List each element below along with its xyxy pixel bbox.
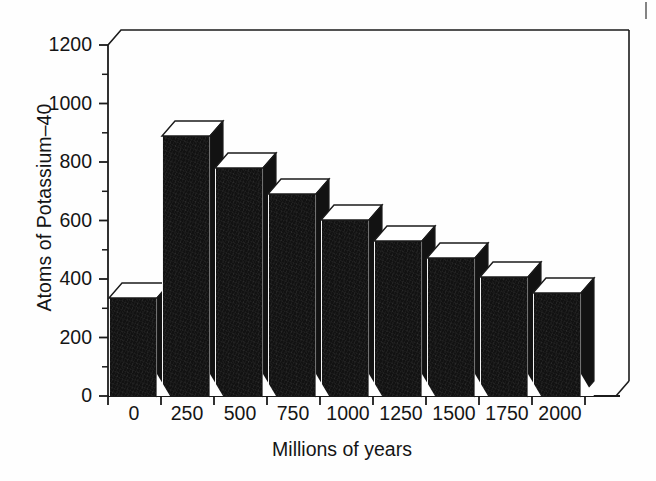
chart-figure: 0 200 400 600 800 1000 1200 0 250 500 75… <box>0 0 656 481</box>
x-axis-title: Millions of years <box>0 438 656 461</box>
x-tick-label-1750: 1750 <box>485 402 528 424</box>
x-tick-label-0: 0 <box>129 402 140 424</box>
y-tick-label-1200: 1200 <box>18 35 92 55</box>
x-tick-label-1250: 1250 <box>379 402 422 424</box>
y-axis-title: Atoms of Potassium–40 <box>33 78 56 338</box>
x-axis-title-text: Millions of years <box>272 438 412 461</box>
x-tick-label-2000: 2000 <box>538 402 581 424</box>
x-tick-labels: 0 250 500 750 1000 1250 1500 1750 2000 <box>0 402 656 432</box>
x-tick-label-1500: 1500 <box>432 402 475 424</box>
x-tick-label-750: 750 <box>277 402 310 424</box>
x-tick-label-500: 500 <box>224 402 257 424</box>
x-tick-label-250: 250 <box>171 402 204 424</box>
x-tick-label-1000: 1000 <box>326 402 369 424</box>
plot-area: 0 200 400 600 800 1000 1200 0 250 500 75… <box>0 0 656 481</box>
